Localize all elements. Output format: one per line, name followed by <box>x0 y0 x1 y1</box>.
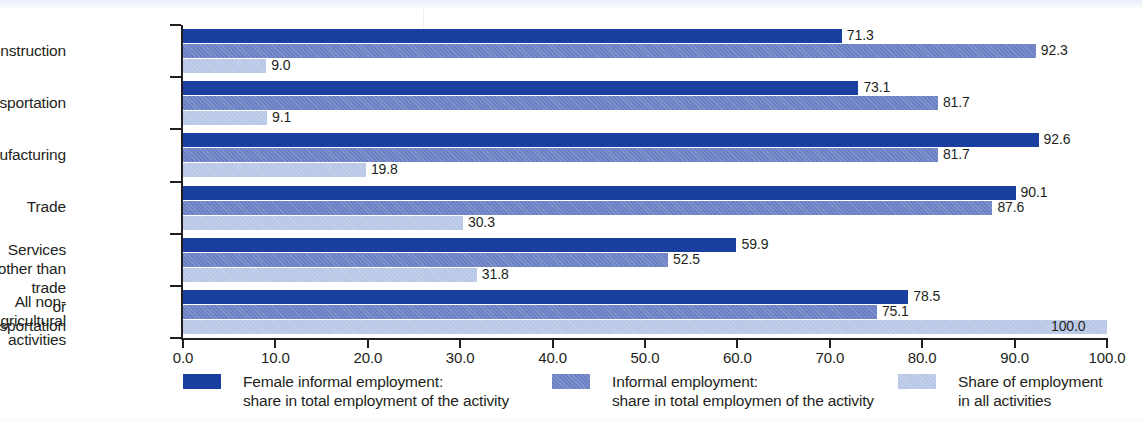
bar-value-label: 87.6 <box>997 199 1024 215</box>
y-axis-tick <box>170 337 181 339</box>
bar-series-0-4 <box>183 238 736 252</box>
x-axis-tick <box>1014 340 1016 348</box>
bar-series-2-4 <box>183 268 477 282</box>
bar-series-2-5 <box>183 320 1107 334</box>
bar-series-2-3 <box>183 216 463 230</box>
x-axis-tick-label: 80.0 <box>908 349 937 366</box>
bar-value-label: 92.6 <box>1044 131 1071 147</box>
x-axis-tick <box>829 340 831 348</box>
x-axis-tick-label: 60.0 <box>723 349 752 366</box>
bar-value-label: 9.0 <box>271 57 290 73</box>
x-axis-tick-label: 50.0 <box>631 349 660 366</box>
bar-series-2-2 <box>183 163 366 177</box>
y-axis-tick <box>170 128 181 130</box>
x-axis-tick-label: 40.0 <box>538 349 567 366</box>
bar-series-0-0 <box>183 29 842 43</box>
legend-item[interactable]: Informal employment: share in total empl… <box>552 372 874 410</box>
category-label: Trade <box>27 197 66 216</box>
legend-color-swatch <box>552 374 590 389</box>
bar-value-label: 31.8 <box>482 266 509 282</box>
bar-series-1-4 <box>183 253 668 267</box>
x-axis-tick <box>182 340 184 348</box>
category-label: Construction <box>0 41 66 60</box>
legend-item[interactable]: Share of employment in all activities <box>898 372 1102 410</box>
bar-series-2-1 <box>183 111 267 125</box>
x-axis-tick <box>459 340 461 348</box>
x-axis-tick-label: 70.0 <box>815 349 844 366</box>
x-axis-tick <box>1106 340 1108 348</box>
bar-value-label: 30.3 <box>468 214 495 230</box>
bar-value-label: 92.3 <box>1041 42 1068 58</box>
bar-series-1-3 <box>183 201 992 215</box>
bar-series-0-1 <box>183 81 858 95</box>
x-axis-tick-label: 0.0 <box>173 349 194 366</box>
y-axis-tick <box>170 181 181 183</box>
bar-series-0-5 <box>183 290 908 304</box>
chart-legend: Female informal employment: share in tot… <box>0 372 1142 420</box>
bar-series-2-0 <box>183 59 266 73</box>
bar-value-label: 90.1 <box>1021 184 1048 200</box>
y-axis-tick <box>170 76 181 78</box>
bar-value-label: 59.9 <box>741 236 768 252</box>
x-axis-tick <box>921 340 923 348</box>
bar-value-label: 75.1 <box>882 303 909 319</box>
bar-value-label: 81.7 <box>943 94 970 110</box>
y-axis-tick <box>170 24 181 26</box>
bar-series-1-0 <box>183 44 1036 58</box>
category-label: Transportation <box>0 93 66 112</box>
legend-color-swatch <box>183 374 221 389</box>
bar-series-1-5 <box>183 305 877 319</box>
x-axis-tick <box>552 340 554 348</box>
legend-label: Share of employment in all activities <box>958 372 1102 410</box>
x-axis-tick <box>367 340 369 348</box>
bar-value-label: 19.8 <box>371 161 398 177</box>
x-axis-tick <box>644 340 646 348</box>
bar-value-label: 73.1 <box>863 79 890 95</box>
bar-value-label: 52.5 <box>673 251 700 267</box>
bar-value-label: 81.7 <box>943 146 970 162</box>
x-axis-tick <box>274 340 276 348</box>
bar-series-1-1 <box>183 96 938 110</box>
y-axis-tick <box>170 285 181 287</box>
x-axis-tick-label: 10.0 <box>261 349 290 366</box>
bar-value-label: 78.5 <box>913 288 940 304</box>
y-axis-tick <box>170 233 181 235</box>
legend-color-swatch <box>898 374 936 389</box>
category-label: Manufacturing <box>0 145 66 164</box>
grouped-bar-chart: 0.010.020.030.040.050.060.070.080.090.01… <box>0 0 1142 421</box>
bar-series-0-3 <box>183 186 1016 200</box>
bar-value-label: 71.3 <box>847 27 874 43</box>
bar-value-label: 9.1 <box>272 109 291 125</box>
legend-label: Informal employment: share in total empl… <box>612 372 874 410</box>
x-axis-tick-label: 20.0 <box>353 349 382 366</box>
x-axis-tick <box>736 340 738 348</box>
x-axis-tick-label: 90.0 <box>1000 349 1029 366</box>
x-axis-tick-label: 100.0 <box>1088 349 1125 366</box>
bar-value-label: 100.0 <box>1051 318 1086 334</box>
x-axis-tick-label: 30.0 <box>446 349 475 366</box>
bar-series-0-2 <box>183 133 1039 147</box>
legend-item[interactable]: Female informal employment: share in tot… <box>183 372 509 410</box>
bar-series-1-2 <box>183 148 938 162</box>
category-label: All non-agricultural activities <box>0 292 66 349</box>
legend-label: Female informal employment: share in tot… <box>243 372 509 410</box>
